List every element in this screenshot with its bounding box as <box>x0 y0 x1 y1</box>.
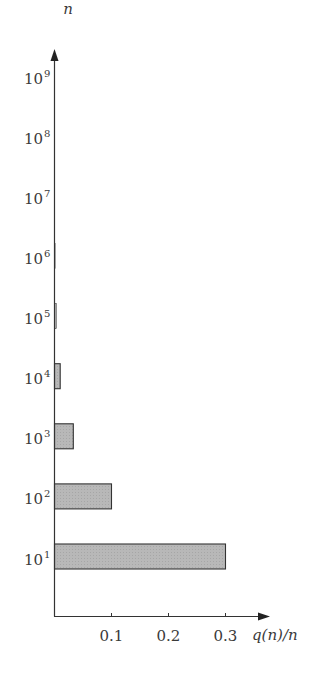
y-tick-label: 106 <box>24 248 50 268</box>
x-ticks: 0.10.20.3 <box>100 613 238 645</box>
y-axis-arrow-icon <box>51 49 59 61</box>
y-tick-label: 107 <box>24 188 50 208</box>
y-tick-label: 109 <box>24 68 50 88</box>
x-axis-arrow-icon <box>258 613 270 621</box>
y-axis-title: n <box>63 0 73 18</box>
y-tick-label: 102 <box>24 488 50 508</box>
y-tick-labels: 101102103104105106107108109 <box>24 68 50 569</box>
bar-10^3 <box>55 424 74 449</box>
y-tick-label: 104 <box>24 368 50 388</box>
y-tick-label: 105 <box>24 308 50 328</box>
y-tick-label: 108 <box>24 128 50 148</box>
y-tick-label: 103 <box>24 428 50 448</box>
bar-10^1 <box>55 544 226 569</box>
bar-10^4 <box>55 364 61 389</box>
y-tick-label: 101 <box>24 549 50 569</box>
x-tick-label: 0.1 <box>100 627 124 645</box>
x-tick-label: 0.2 <box>157 627 181 645</box>
bar-10^2 <box>55 484 112 509</box>
bar-chart: 101102103104105106107108109 0.10.20.3 n … <box>0 0 329 677</box>
x-tick-label: 0.3 <box>214 627 238 645</box>
x-axis-title: q(n)/n <box>252 626 298 644</box>
bars-group <box>55 244 226 570</box>
